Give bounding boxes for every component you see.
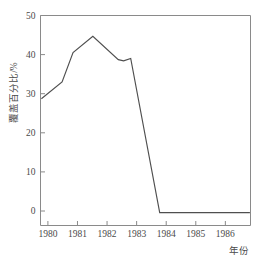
x-tick-label: 1983 xyxy=(127,229,146,239)
y-tick-label: 20 xyxy=(26,128,36,138)
y-axis-title: 覆盖百分比/% xyxy=(8,62,19,123)
x-axis-title: 年份 xyxy=(229,245,249,256)
y-tick-label: 50 xyxy=(26,11,36,21)
x-tick-label: 1986 xyxy=(216,229,235,239)
y-tick-label: 30 xyxy=(26,89,36,99)
data-series-line xyxy=(41,36,250,212)
plot-frame xyxy=(41,16,251,226)
x-tick-label: 1980 xyxy=(38,229,57,239)
y-tick-label: 10 xyxy=(26,167,36,177)
x-tick-label: 1984 xyxy=(157,229,176,239)
x-tick-label: 1985 xyxy=(186,229,205,239)
y-tick-label: 0 xyxy=(31,206,36,216)
x-tick-label: 1982 xyxy=(98,229,117,239)
chart-figure: 010203040501980198119821983198419851986年… xyxy=(0,0,258,260)
y-tick-label: 40 xyxy=(26,50,36,60)
x-tick-label: 1981 xyxy=(68,229,87,239)
line-chart: 010203040501980198119821983198419851986年… xyxy=(0,0,258,260)
